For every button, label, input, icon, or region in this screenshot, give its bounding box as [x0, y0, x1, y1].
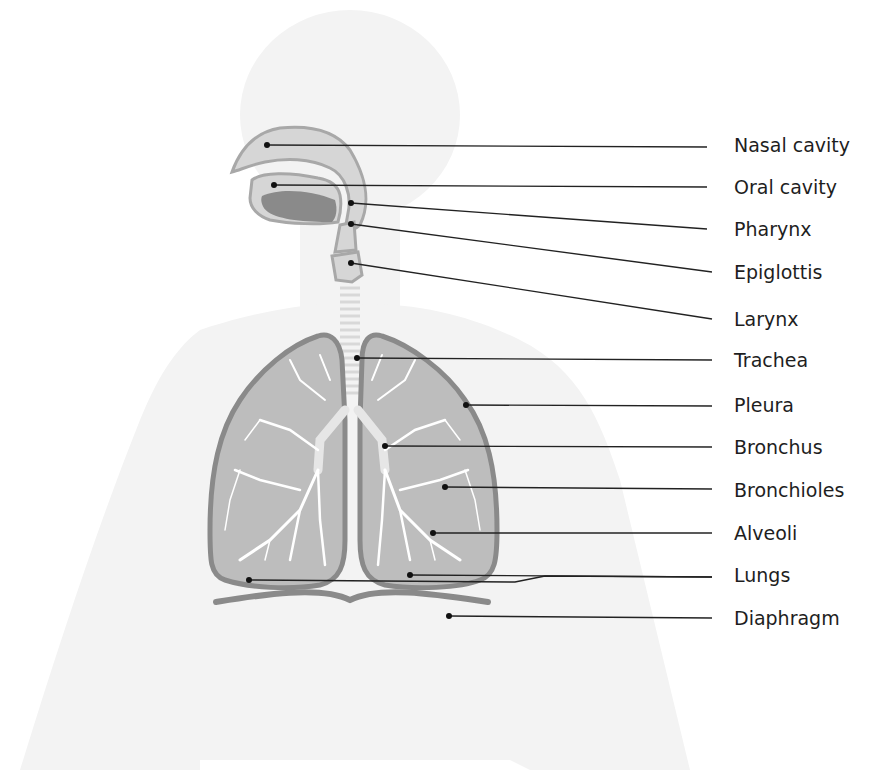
label-bronchioles: Bronchioles	[734, 479, 844, 501]
label-larynx: Larynx	[734, 308, 799, 330]
label-nasal-cavity: Nasal cavity	[734, 134, 850, 156]
label-bronchus: Bronchus	[734, 436, 823, 458]
label-diaphragm: Diaphragm	[734, 607, 840, 629]
label-lungs: Lungs	[734, 564, 790, 586]
body-silhouette	[20, 10, 690, 770]
label-oral-cavity: Oral cavity	[734, 176, 837, 198]
label-alveoli: Alveoli	[734, 522, 797, 544]
label-trachea: Trachea	[734, 349, 808, 371]
label-epiglottis: Epiglottis	[734, 261, 822, 283]
label-pleura: Pleura	[734, 394, 794, 416]
label-pharynx: Pharynx	[734, 218, 811, 240]
respiratory-diagram	[0, 0, 892, 780]
